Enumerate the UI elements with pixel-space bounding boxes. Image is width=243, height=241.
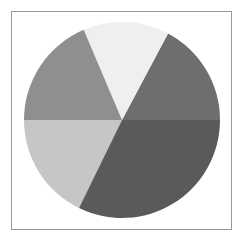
figure-root bbox=[0, 0, 243, 241]
pie-chart-svg bbox=[0, 0, 243, 241]
pie-slice-group bbox=[24, 22, 220, 218]
pie-chart bbox=[0, 0, 243, 241]
